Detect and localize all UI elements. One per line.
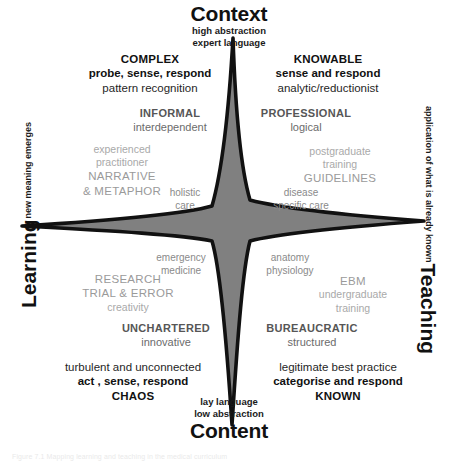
- light-label-guidelines-line3: GUIDELINES: [285, 171, 395, 185]
- mid-label-unchartered: UNCHARTERED innovative: [96, 322, 236, 350]
- light-label-research-line3: creativity: [58, 301, 198, 314]
- quadrant-chaos-descriptor: turbulent and unconnected: [33, 360, 233, 374]
- figure-caption: Figure 7.1 Mapping learning and teaching…: [12, 452, 342, 461]
- inner-label-anatomy-line2: physiology: [249, 265, 331, 278]
- axis-right: application of what is already known Tea…: [409, 135, 449, 325]
- light-label-ebm-line2: undergraduate: [298, 288, 408, 301]
- inner-label-anatomy-physiology: anatomy physiology: [249, 252, 331, 277]
- axis-right-sub: application of what is already known: [424, 106, 434, 263]
- inner-label-disease-line1: disease: [258, 187, 344, 200]
- inner-label-holistic-line2: care: [150, 200, 220, 213]
- quadrant-complex-descriptor: pattern recognition: [55, 81, 245, 95]
- mid-label-unchartered-name: UNCHARTERED: [96, 322, 236, 336]
- mid-label-bureaucratic: BUREAUCRATIC structured: [242, 322, 382, 350]
- mid-label-professional: PROFESSIONAL logical: [236, 107, 376, 135]
- mid-label-unchartered-descriptor: innovative: [96, 336, 236, 350]
- inner-label-holistic-line1: holistic: [150, 187, 220, 200]
- light-label-ebm: EBM undergraduate training: [298, 274, 408, 315]
- light-label-research: RESEARCH TRIAL & ERROR creativity: [58, 272, 198, 314]
- quadrant-known: legitimate best practice categorise and …: [238, 360, 438, 403]
- mid-label-professional-descriptor: logical: [236, 121, 376, 135]
- quadrant-known-name: KNOWN: [238, 389, 438, 403]
- inner-label-disease-line2: specific care: [258, 200, 344, 213]
- inner-label-disease-specific-care: disease specific care: [258, 187, 344, 212]
- axis-left: Learning new meaning emerges: [6, 140, 50, 290]
- mid-label-informal: INFORMAL interdependent: [105, 107, 235, 135]
- axis-bottom-sub2: low abstraction: [149, 408, 309, 420]
- light-label-narrative-line3: NARRATIVE: [62, 169, 182, 183]
- light-label-guidelines-line1: postgraduate: [285, 145, 395, 158]
- inner-label-anatomy-line1: anatomy: [249, 252, 331, 265]
- mid-label-informal-descriptor: interdependent: [105, 121, 235, 135]
- quadrant-complex-name: COMPLEX: [55, 52, 245, 66]
- figure-caption-text: Figure 7.1 Mapping learning and teaching…: [12, 453, 227, 460]
- quadrant-chaos-name: CHAOS: [33, 389, 233, 403]
- quadrant-known-action: categorise and respond: [238, 374, 438, 388]
- light-label-guidelines: postgraduate training GUIDELINES: [285, 145, 395, 186]
- diagram-canvas: Context high abstraction expert language…: [0, 0, 459, 465]
- quadrant-knowable-action: sense and respond: [233, 66, 423, 80]
- light-label-research-line2: TRIAL & ERROR: [58, 286, 198, 300]
- light-label-narrative-line1: experienced: [62, 143, 182, 156]
- axis-bottom-title: Content: [149, 420, 309, 442]
- axis-top-title: Context: [149, 3, 309, 25]
- axis-left-title: Learning: [18, 219, 39, 308]
- axis-top-sub1: high abstraction: [149, 25, 309, 37]
- mid-label-bureaucratic-name: BUREAUCRATIC: [242, 322, 382, 336]
- light-label-ebm-line3: training: [298, 302, 408, 315]
- quadrant-knowable-descriptor: analytic/reductionist: [233, 81, 423, 95]
- inner-label-emergency-line2: medicine: [140, 265, 222, 278]
- quadrant-knowable: KNOWABLE sense and respond analytic/redu…: [233, 52, 423, 95]
- inner-label-emergency-medicine: emergency medicine: [140, 252, 222, 277]
- quadrant-known-descriptor: legitimate best practice: [238, 360, 438, 374]
- axis-top-sub2: expert language: [149, 37, 309, 49]
- mid-label-bureaucratic-descriptor: structured: [242, 336, 382, 350]
- inner-label-emergency-line1: emergency: [140, 252, 222, 265]
- mid-label-informal-name: INFORMAL: [105, 107, 235, 121]
- quadrant-complex: COMPLEX probe, sense, respond pattern re…: [55, 52, 245, 95]
- quadrant-chaos-action: act , sense, respond: [33, 374, 233, 388]
- inner-label-holistic-care: holistic care: [150, 187, 220, 212]
- quadrant-complex-action: probe, sense, respond: [55, 66, 245, 80]
- quadrant-chaos: turbulent and unconnected act , sense, r…: [33, 360, 233, 403]
- light-label-narrative-line2: practitioner: [62, 156, 182, 169]
- axis-top: Context high abstraction expert language: [149, 3, 309, 48]
- mid-label-professional-name: PROFESSIONAL: [236, 107, 376, 121]
- axis-right-title: Teaching: [419, 263, 440, 354]
- light-label-guidelines-line2: training: [285, 158, 395, 171]
- quadrant-knowable-name: KNOWABLE: [233, 52, 423, 66]
- axis-left-sub: new meaning emerges: [23, 122, 33, 219]
